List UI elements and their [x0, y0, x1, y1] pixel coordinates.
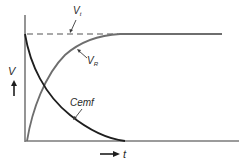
up-arrow-head	[11, 80, 17, 86]
vr-curve	[27, 34, 222, 141]
time-response-diagram: Vt VR Cemf V t	[0, 0, 239, 160]
right-arrow-head	[113, 151, 120, 157]
vr-leader-line	[79, 51, 87, 58]
vt-label: Vt	[73, 5, 82, 17]
cemf-curve	[25, 34, 125, 141]
vt-leader-arrowhead	[70, 29, 74, 33]
x-axis-label: t	[123, 148, 127, 160]
y-axis-label: V	[8, 65, 17, 77]
vt-leader-line	[71, 20, 76, 31]
vr-label: VR	[87, 55, 99, 67]
cemf-label: Cemf	[70, 97, 95, 108]
cemf-leader-line	[75, 109, 82, 118]
